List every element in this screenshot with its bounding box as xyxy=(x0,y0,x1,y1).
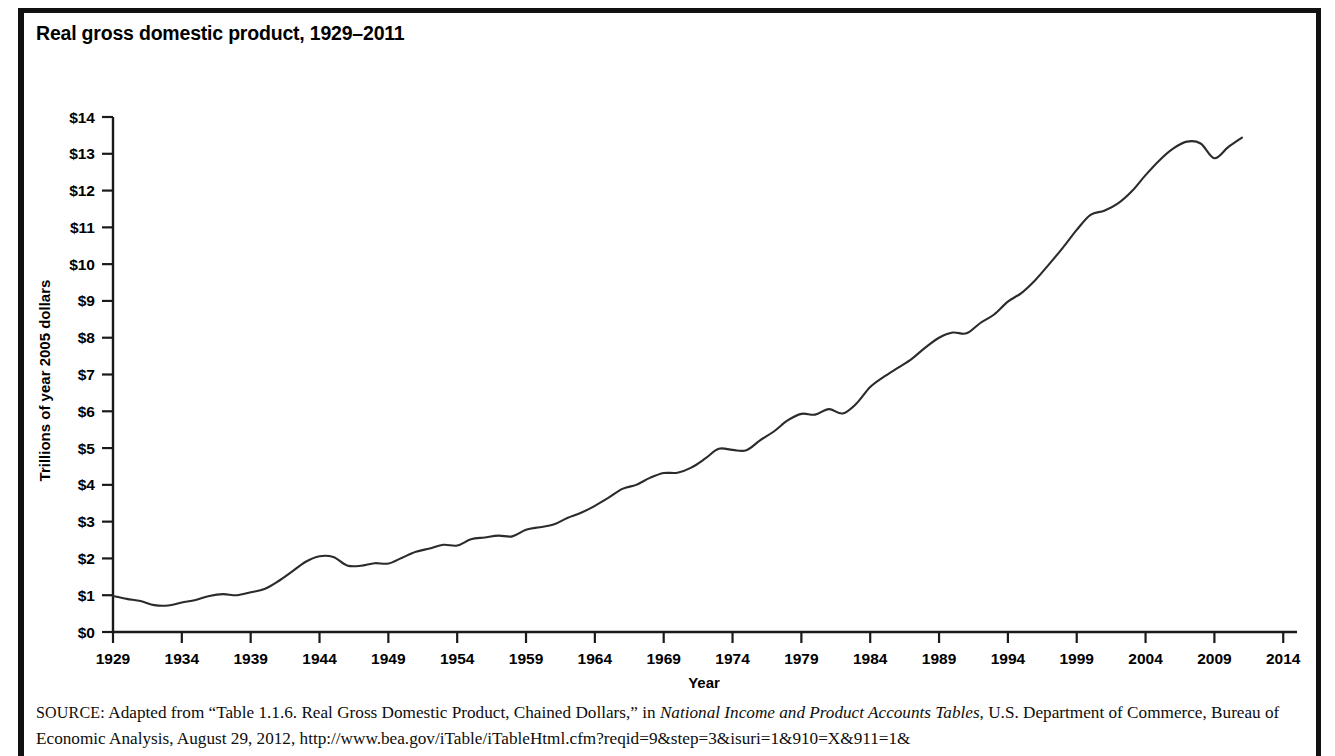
y-axis-tick-label: $12 xyxy=(69,182,95,199)
x-axis-tick-label: 1964 xyxy=(578,650,613,667)
y-axis-title: Trillions of year 2005 dollars xyxy=(36,241,53,521)
x-axis-title: Year xyxy=(113,674,1295,691)
y-axis-tick-label: $8 xyxy=(78,329,96,346)
y-axis-tick-label: $6 xyxy=(78,403,96,420)
x-axis-tick-label: 1954 xyxy=(440,650,475,667)
x-axis-tick-label: 2009 xyxy=(1197,650,1232,667)
y-axis-tick-label: $9 xyxy=(78,292,96,309)
x-axis-tick-label: 1979 xyxy=(784,650,819,667)
y-axis-tick-label: $11 xyxy=(70,219,95,236)
chart-plot-area: $0$1$2$3$4$5$6$7$8$9$10$11$12$13$14 1929… xyxy=(0,0,1335,700)
y-axis-tick-label: $3 xyxy=(78,513,96,530)
source-note: SOURCE: Adapted from “Table 1.1.6. Real … xyxy=(36,700,1308,752)
x-axis-tick-label: 1934 xyxy=(165,650,200,667)
y-axis-tick-label: $10 xyxy=(69,256,95,273)
y-axis-tick-group: $0$1$2$3$4$5$6$7$8$9$10$11$12$13$14 xyxy=(69,109,113,641)
source-publication-title: National Income and Product Accounts Tab… xyxy=(660,703,980,722)
x-axis-tick-label: 1944 xyxy=(302,650,337,667)
x-axis-tick-label: 1969 xyxy=(646,650,681,667)
x-axis-tick-label: 1999 xyxy=(1059,650,1094,667)
x-axis-tick-label: 1939 xyxy=(233,650,268,667)
figure-page: Real gross domestic product, 1929–2011 $… xyxy=(0,0,1335,756)
x-axis-tick-group: 1929193419391944194919541959196419691974… xyxy=(96,632,1301,667)
x-axis-tick-label: 1989 xyxy=(922,650,957,667)
source-text-b: , U.S. Department xyxy=(980,703,1105,722)
y-axis-tick-label: $7 xyxy=(78,366,95,383)
x-axis-tick-label: 1984 xyxy=(853,650,888,667)
y-axis-tick-label: $4 xyxy=(78,476,96,493)
y-axis-tick-label: $5 xyxy=(78,440,96,457)
gdp-line-chart: $0$1$2$3$4$5$6$7$8$9$10$11$12$13$14 1929… xyxy=(0,0,1335,700)
y-axis-tick-label: $14 xyxy=(69,109,95,126)
source-label: SOURCE: xyxy=(36,704,105,721)
y-axis-tick-label: $13 xyxy=(69,145,95,162)
source-text-a: Adapted from “Table 1.1.6. Real Gross Do… xyxy=(105,703,660,722)
x-axis-tick-label: 1949 xyxy=(371,650,406,667)
y-axis-tick-label: $1 xyxy=(78,587,96,604)
x-axis-tick-label: 1974 xyxy=(715,650,750,667)
x-axis-tick-label: 1994 xyxy=(991,650,1026,667)
y-axis-tick-label: $0 xyxy=(78,624,95,641)
real-gdp-series-line xyxy=(113,138,1242,606)
x-axis-tick-label: 2014 xyxy=(1266,650,1301,667)
y-axis-tick-label: $2 xyxy=(78,550,95,567)
x-axis-tick-label: 1959 xyxy=(509,650,544,667)
x-axis-tick-label: 2004 xyxy=(1128,650,1163,667)
x-axis-tick-label: 1929 xyxy=(96,650,131,667)
